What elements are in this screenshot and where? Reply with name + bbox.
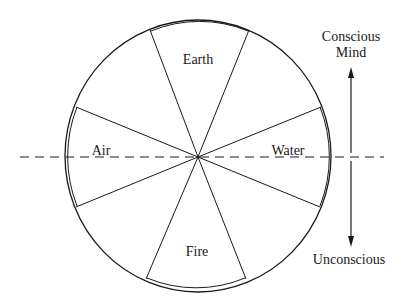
arrow-up-head-icon bbox=[348, 67, 354, 78]
conscious-label: Conscious bbox=[322, 29, 380, 44]
arrow-down-head-icon bbox=[348, 236, 354, 247]
element-label-water: Water bbox=[271, 143, 304, 158]
element-label-air: Air bbox=[92, 143, 111, 158]
element-label-earth: Earth bbox=[183, 52, 213, 67]
earth-sector-double-arc bbox=[151, 21, 248, 31]
unconscious-label: Unconscious bbox=[313, 252, 385, 267]
mind-label: Mind bbox=[336, 45, 366, 60]
element-label-fire: Fire bbox=[186, 244, 209, 259]
four-elements-wheel-diagram: Earth Air Water Fire Conscious Mind Unco… bbox=[0, 0, 406, 302]
